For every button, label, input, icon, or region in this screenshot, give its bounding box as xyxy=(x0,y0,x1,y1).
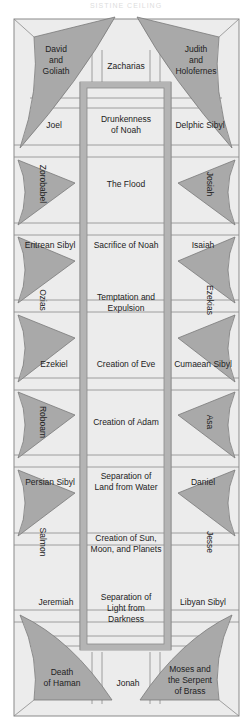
corner-top-right-label: Judith and Holofernes xyxy=(175,44,216,77)
spandrel-right-label: Josiah xyxy=(204,172,215,197)
row-center-label: Creation of Adam xyxy=(93,417,159,428)
prophet-bottom-label: Jonah xyxy=(116,678,139,689)
row-center-label: The Flood xyxy=(107,179,145,190)
row-left-label: Eritrean Sibyl xyxy=(25,240,76,251)
row-right-label: Daniel xyxy=(191,477,215,488)
row-right-label: Cumaean Sibyl xyxy=(174,359,232,370)
row-left-label: Joel xyxy=(46,120,62,131)
spandrel-left-label: Zorobabel xyxy=(37,165,48,203)
spandrel-left-label: Salmon xyxy=(37,528,48,557)
row-center-label: Drunkenness of Noah xyxy=(101,114,151,136)
spandrel-right-label: Jesse xyxy=(204,531,215,553)
spandrel-left-label: Ozias xyxy=(37,289,48,311)
row-center-label: Creation of Eve xyxy=(97,359,156,370)
corner-bottom-right-label: Moses and the Serpent of Brass xyxy=(168,664,212,697)
corner-bottom-left-label: Death of Haman xyxy=(44,667,81,689)
corner-top-left-label: David and Goliath xyxy=(43,44,70,77)
row-center-label: Sacrifice of Noah xyxy=(94,240,159,251)
row-center-label: Separation of Land from Water xyxy=(95,471,158,493)
row-left-label: Jeremiah xyxy=(39,597,74,608)
spandrel-right-label: Ezekias xyxy=(204,285,215,315)
row-right-label: Delphic Sibyl xyxy=(175,120,224,131)
spandrel-right-label: Asa xyxy=(204,415,215,430)
row-left-label: Persian Sibyl xyxy=(25,477,75,488)
prophet-top-label: Zacharias xyxy=(107,61,144,72)
row-center-label: Temptation and Expulsion xyxy=(97,292,155,314)
spandrel-left-label: Roboam xyxy=(37,406,48,438)
row-center-label: Creation of Sun, Moon, and Planets xyxy=(91,533,162,555)
row-right-label: Libyan Sibyl xyxy=(180,597,226,608)
row-center-label: Separation of Light from Darkness xyxy=(101,592,152,625)
row-left-label: Ezekiel xyxy=(40,359,67,370)
row-right-label: Isaiah xyxy=(192,240,215,251)
